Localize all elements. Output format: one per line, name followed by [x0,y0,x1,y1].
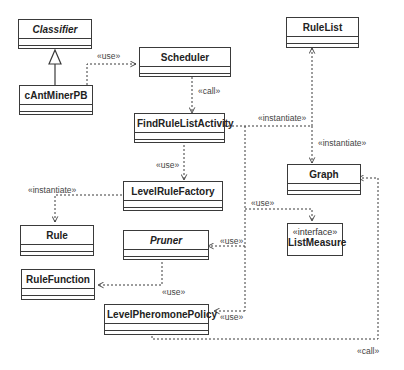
label-use-find-listmeasure: «use» [251,198,274,208]
attributes-compartment [288,184,360,191]
class-name: FindRuleListActivity [135,114,224,133]
class-name: Graph [288,165,360,184]
uml-class-diagram: Classifier cAntMinerPB Scheduler RuleLis… [0,0,404,370]
class-graph[interactable]: Graph [287,164,361,195]
class-rulefunction[interactable]: RuleFunction [21,269,95,300]
class-levelrulefactory[interactable]: LevelRuleFactory [123,181,223,211]
label-use-find-policy: «use» [220,312,243,322]
label-inst-factory-rule: «instantiate» [28,185,76,195]
edge-use-find-listmeasure [245,209,312,221]
class-rulelist[interactable]: RuleList [286,17,359,48]
class-name: Classifier [19,20,91,39]
class-name: Rule [21,226,93,245]
operations-compartment [19,46,91,52]
attributes-compartment [124,201,222,208]
attributes-compartment [19,39,91,46]
edge-inst-factory-rule [55,195,122,222]
interface-name: ListMeasure [288,237,342,249]
class-classifier[interactable]: Classifier [18,19,92,49]
class-rule[interactable]: Rule [20,225,94,256]
class-name: Pruner [124,231,208,250]
operations-compartment [135,140,224,146]
label-use-find-pruner: «use» [220,236,243,246]
label-use-find-factory: «use» [156,160,179,170]
class-name: RuleList [287,18,358,37]
label-call-policy-graph: «call» [357,346,379,356]
label-inst-find-rulelist: «instantiate» [258,113,306,123]
operations-compartment [124,208,222,214]
operations-compartment [22,296,94,302]
operations-compartment [140,74,230,80]
class-cantminerpb[interactable]: cAntMinerPB [19,85,93,115]
class-name: RuleFunction [22,270,94,289]
attributes-compartment [105,324,208,331]
stereotype-label: «interface» [288,224,342,237]
label-use-pruner-rulefunction: «use» [162,287,185,297]
attributes-compartment [135,133,224,140]
class-name: Scheduler [140,48,230,67]
operations-compartment [105,331,208,337]
label-inst-find-graph: «instantiate» [318,138,366,148]
attributes-compartment [21,245,93,252]
class-scheduler[interactable]: Scheduler [139,47,231,77]
attributes-compartment [140,67,230,74]
class-name: LevelPheromonePolicy [105,305,208,324]
class-name: LevelRuleFactory [124,182,222,201]
operations-compartment [21,252,93,258]
label-call-scheduler-find: «call» [198,86,220,96]
operations-compartment [288,191,360,197]
interface-listmeasure[interactable]: «interface» ListMeasure [287,223,343,256]
operations-compartment [287,44,358,50]
attributes-compartment [20,105,92,112]
attributes-compartment [287,37,358,44]
label-use-cantminer-scheduler: «use» [97,51,120,61]
class-findrulelistactivity[interactable]: FindRuleListActivity [134,113,225,143]
edge-use-cantminer-scheduler [87,64,136,85]
operations-compartment [20,112,92,118]
class-name: cAntMinerPB [20,86,92,105]
attributes-compartment [22,289,94,296]
edge-generalization-cantminer-classifier [49,50,61,85]
class-levelpheromonepolicy[interactable]: LevelPheromonePolicy [104,304,209,335]
attributes-compartment [124,250,208,257]
operations-compartment [124,257,208,263]
class-pruner[interactable]: Pruner [123,230,209,260]
